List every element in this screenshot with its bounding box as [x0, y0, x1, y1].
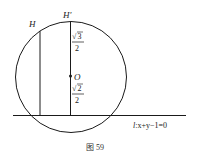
- sqrt-sign-upper: √: [72, 32, 77, 41]
- radicand-upper: 3: [78, 32, 82, 41]
- center-point-O: [69, 75, 72, 78]
- radicand-lower: 2: [78, 84, 82, 93]
- line-equation-label: l:x+y−1=0: [133, 121, 167, 130]
- label-H: H: [28, 19, 36, 29]
- fraction-lower: √ 2 2: [72, 84, 84, 105]
- figure-caption: 图 59: [86, 143, 104, 152]
- label-H-prime: H′: [62, 10, 72, 20]
- fraction-upper: √ 3 2: [72, 32, 84, 53]
- line-equation: :x+y−1=0: [135, 121, 167, 130]
- sqrt-sign-lower: √: [72, 84, 77, 93]
- geometry-figure: H H′ O √ 3 2 √ 2 2 l:x+y−1=0 图 59: [0, 0, 197, 165]
- label-O: O: [74, 72, 81, 82]
- denominator-upper: 2: [75, 44, 79, 53]
- denominator-lower: 2: [75, 96, 79, 105]
